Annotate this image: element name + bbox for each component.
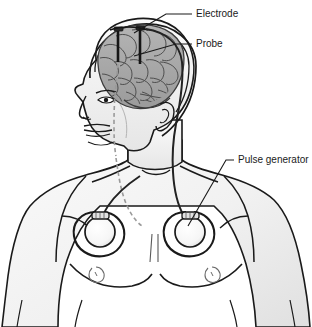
dbs-diagram-figure: Electrode Probe Pulse generator xyxy=(0,0,312,327)
generator-header-right xyxy=(182,212,199,219)
label-pulse-generator: Pulse generator xyxy=(238,154,309,165)
label-electrode: Electrode xyxy=(196,8,239,19)
generator-header-left xyxy=(92,212,109,219)
label-probe: Probe xyxy=(196,38,223,49)
eye xyxy=(98,97,115,103)
generator-body-left xyxy=(85,217,115,247)
